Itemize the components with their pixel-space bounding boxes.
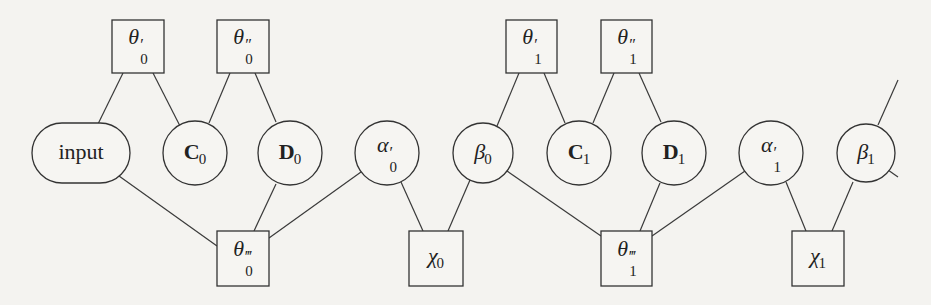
edge-D0-theta3_0 [254, 184, 276, 231]
subscript: 0 [140, 52, 148, 66]
label-chi1: χ1 [810, 245, 826, 271]
subscript: 1 [678, 151, 686, 167]
subscript: 0 [437, 255, 445, 271]
script: ′1 [534, 37, 542, 66]
subscript: 0 [245, 52, 253, 66]
label-beta1: β1 [857, 141, 874, 167]
subscript: 0 [199, 151, 207, 167]
edge-alpha_1-chi1 [786, 182, 806, 231]
edge-D1-theta3_1 [640, 183, 660, 231]
edge-theta2_0-C0 [209, 73, 230, 123]
label-theta1_1: θ′1 [522, 26, 541, 66]
symbol: C [184, 139, 200, 164]
edge-alpha_0-chi0 [401, 182, 423, 231]
prime-mark: ′ [534, 37, 538, 52]
subscript: 0 [245, 264, 253, 278]
symbol: θ [233, 236, 244, 261]
label-C1: C1 [568, 141, 590, 167]
edge-theta1_0-input [98, 73, 123, 124]
symbol: α [377, 132, 389, 157]
edge-beta1-up-right [878, 80, 898, 125]
label-theta3_1: θ‴1 [617, 238, 636, 278]
input-text: input [58, 139, 103, 164]
label-alpha_0: α′0 [377, 134, 397, 174]
subscript: 1 [583, 151, 591, 167]
label-theta3_0: θ‴0 [233, 238, 252, 278]
subscript: 1 [534, 52, 542, 66]
edge-theta2_1-D1 [639, 73, 661, 122]
script: ″1 [629, 37, 637, 66]
symbol: θ [617, 24, 628, 49]
script: ′0 [140, 37, 148, 66]
symbol: θ [522, 24, 533, 49]
edge-theta1_0-C0 [153, 73, 180, 126]
subscript: 1 [819, 255, 827, 271]
label-theta2_0: θ″0 [233, 26, 252, 66]
script: ″0 [245, 37, 253, 66]
label-chi0: χ0 [428, 245, 444, 271]
symbol: D [663, 139, 679, 164]
label-theta1_0: θ′0 [128, 26, 147, 66]
symbol: θ [233, 24, 244, 49]
label-input: input [58, 141, 103, 163]
prime-mark: ‴ [629, 249, 636, 264]
label-theta2_1: θ″1 [617, 26, 636, 66]
label-alpha_1: α′1 [761, 134, 781, 174]
edge-theta1_1-beta0 [497, 73, 519, 126]
edge-beta0-chi0 [448, 180, 470, 231]
edge-theta1_1-C1 [544, 73, 565, 123]
script: ‴1 [629, 249, 637, 278]
edge-theta2_0-D0 [255, 73, 276, 122]
subscript: 0 [484, 151, 492, 167]
prime-mark: ′ [390, 145, 394, 160]
symbol: θ [617, 236, 628, 261]
subscript: 1 [774, 160, 782, 174]
prime-mark: ″ [629, 37, 636, 52]
subscript: 1 [629, 264, 637, 278]
symbol: C [568, 139, 584, 164]
edge-input-theta3_0 [119, 176, 217, 246]
edge-beta1-chi1 [832, 182, 853, 231]
subscript: 1 [629, 52, 637, 66]
script: ′1 [774, 145, 782, 174]
symbol: α [761, 132, 773, 157]
label-D0: D0 [279, 141, 301, 167]
symbol: D [279, 139, 295, 164]
prime-mark: ′ [140, 37, 144, 52]
factor-graph-diagram: θ′0 θ″0 input C0 D0 α′0 θ‴0 χ0 β0 θ′1 θ″… [0, 0, 931, 305]
prime-mark: ‴ [245, 249, 252, 264]
symbol: θ [128, 24, 139, 49]
script: ‴0 [245, 249, 253, 278]
label-beta0: β0 [474, 141, 491, 167]
prime-mark: ′ [774, 145, 778, 160]
label-C0: C0 [184, 141, 206, 167]
edge-theta2_1-C1 [593, 73, 614, 123]
subscript: 0 [390, 160, 398, 174]
subscript: 1 [867, 151, 875, 167]
prime-mark: ″ [245, 37, 252, 52]
label-D1: D1 [663, 141, 685, 167]
subscript: 0 [294, 151, 302, 167]
script: ′0 [390, 145, 398, 174]
